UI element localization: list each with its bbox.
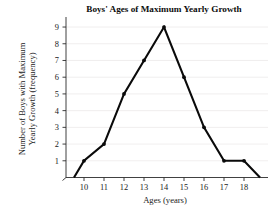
y-tick-label: 5 [55,90,59,99]
data-point [222,159,226,163]
y-axis-title-line2: Yearly Growth (frequency) [27,52,37,145]
x-tick-label: 12 [120,183,128,192]
x-tick-label: 13 [140,183,148,192]
data-point [142,59,146,63]
x-tick-label: 16 [200,183,208,192]
y-axis-ticks: 123456789 [55,23,66,166]
y-tick-label: 9 [55,23,59,32]
y-tick-label: 2 [55,140,59,149]
y-tick-label: 6 [55,73,59,82]
origin-tick [63,178,67,181]
x-tick-label: 11 [100,183,108,192]
x-tick-label: 18 [240,183,248,192]
line-chart: Boys' Ages of Maximum Yearly Growth 1234… [0,0,275,220]
chart-title: Boys' Ages of Maximum Yearly Growth [86,4,241,14]
x-tick-label: 17 [220,183,228,192]
y-axis-title-line1: Number of Boys with Maximum [17,42,27,155]
chart-container: Boys' Ages of Maximum Yearly Growth 1234… [0,0,275,220]
y-tick-label: 7 [55,56,59,65]
data-point [202,125,206,129]
data-point [242,159,246,163]
data-series-line [74,27,260,177]
y-tick-label: 8 [55,40,59,49]
x-tick-label: 14 [160,183,169,192]
x-axis-ticks: 101112131415161718 [80,178,248,193]
data-point [182,75,186,79]
data-point [162,25,166,29]
data-point [82,159,86,163]
x-axis-title: Ages (years) [143,195,187,205]
data-point [122,92,126,96]
y-tick-label: 4 [55,107,60,116]
gridlines [66,27,268,161]
x-tick-label: 15 [180,183,188,192]
data-point [102,142,106,146]
y-tick-label: 1 [55,157,59,166]
y-tick-label: 3 [55,123,59,132]
x-tick-label: 10 [80,183,88,192]
